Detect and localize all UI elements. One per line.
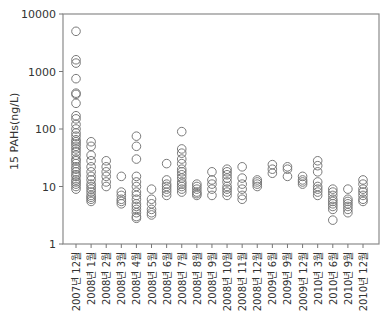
data-point (344, 185, 353, 194)
x-tick-label: 2008년 6월 (162, 252, 173, 305)
data-point (132, 132, 141, 141)
data-point (313, 156, 322, 165)
plot-frame (63, 14, 379, 244)
data-point (313, 168, 322, 177)
y-axis-label: 15 PAHs(ng/L) (8, 93, 21, 170)
x-tick-label: 2010년 3월 (313, 252, 324, 305)
x-tick-label: 2009년 12월 (298, 252, 309, 311)
data-point (132, 142, 141, 151)
data-point (102, 163, 111, 172)
x-tick-label: 2010년 9월 (343, 252, 354, 305)
data-point (162, 159, 171, 168)
x-tick-label: 2008년 5월 (147, 252, 158, 305)
data-point (132, 155, 141, 164)
data-point (72, 74, 81, 83)
x-tick-label: 2008년 11월 (237, 252, 248, 311)
data-points (72, 27, 368, 224)
x-tick-label: 2008년 2월 (101, 252, 112, 305)
x-tick-label: 2008년 10월 (222, 252, 233, 311)
data-point (72, 99, 81, 108)
data-point (177, 127, 186, 136)
x-tick-label: 2010년 6월 (328, 252, 339, 305)
x-tick-label: 2010년 12월 (358, 252, 369, 311)
data-point (72, 27, 81, 36)
scatter-chart: 110100100010000 2007년 12월2008년 1월2008년 2… (0, 0, 389, 316)
x-tick-label: 2008년 1월 (86, 252, 97, 305)
data-point (208, 191, 217, 200)
data-point (359, 197, 368, 206)
data-point (117, 172, 126, 181)
y-tick-label: 10 (42, 181, 56, 194)
x-tick-label: 2008년 7월 (177, 252, 188, 305)
x-axis: 2007년 12월2008년 1월2008년 2월2008년 3월2008년 4… (71, 244, 369, 311)
x-tick-label: 2008년 8월 (192, 252, 203, 305)
data-point (147, 211, 156, 220)
x-tick-label: 2008년 9월 (207, 252, 218, 305)
data-point (238, 163, 247, 172)
y-tick-label: 10000 (21, 8, 56, 21)
plot-border (63, 14, 379, 244)
x-tick-label: 2008년 12월 (252, 252, 263, 311)
data-point (147, 185, 156, 194)
x-tick-label: 2008년 3월 (116, 252, 127, 305)
x-tick-label: 2009년 6월 (267, 252, 278, 305)
y-axis: 110100100010000 (21, 8, 63, 251)
data-point (328, 216, 337, 225)
y-tick-label: 1000 (28, 66, 56, 79)
data-point (87, 163, 96, 172)
x-tick-label: 2008년 4월 (131, 252, 142, 305)
y-tick-label: 100 (35, 123, 56, 136)
data-point (208, 168, 217, 177)
data-point (238, 180, 247, 189)
x-tick-label: 2009년 9월 (282, 252, 293, 305)
x-tick-label: 2007년 12월 (71, 252, 82, 311)
data-point (298, 178, 307, 187)
y-tick-label: 1 (49, 238, 56, 251)
